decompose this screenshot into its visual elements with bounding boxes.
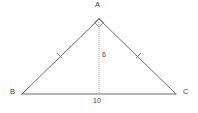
- vertex-label-a: A: [95, 1, 100, 9]
- vertex-label-b: B: [10, 88, 15, 96]
- altitude-measure-label: 6: [102, 51, 106, 59]
- vertex-label-c: C: [183, 88, 189, 96]
- geometry-figure: A B C 6 10: [0, 0, 198, 113]
- base-measure-label: 10: [93, 97, 101, 105]
